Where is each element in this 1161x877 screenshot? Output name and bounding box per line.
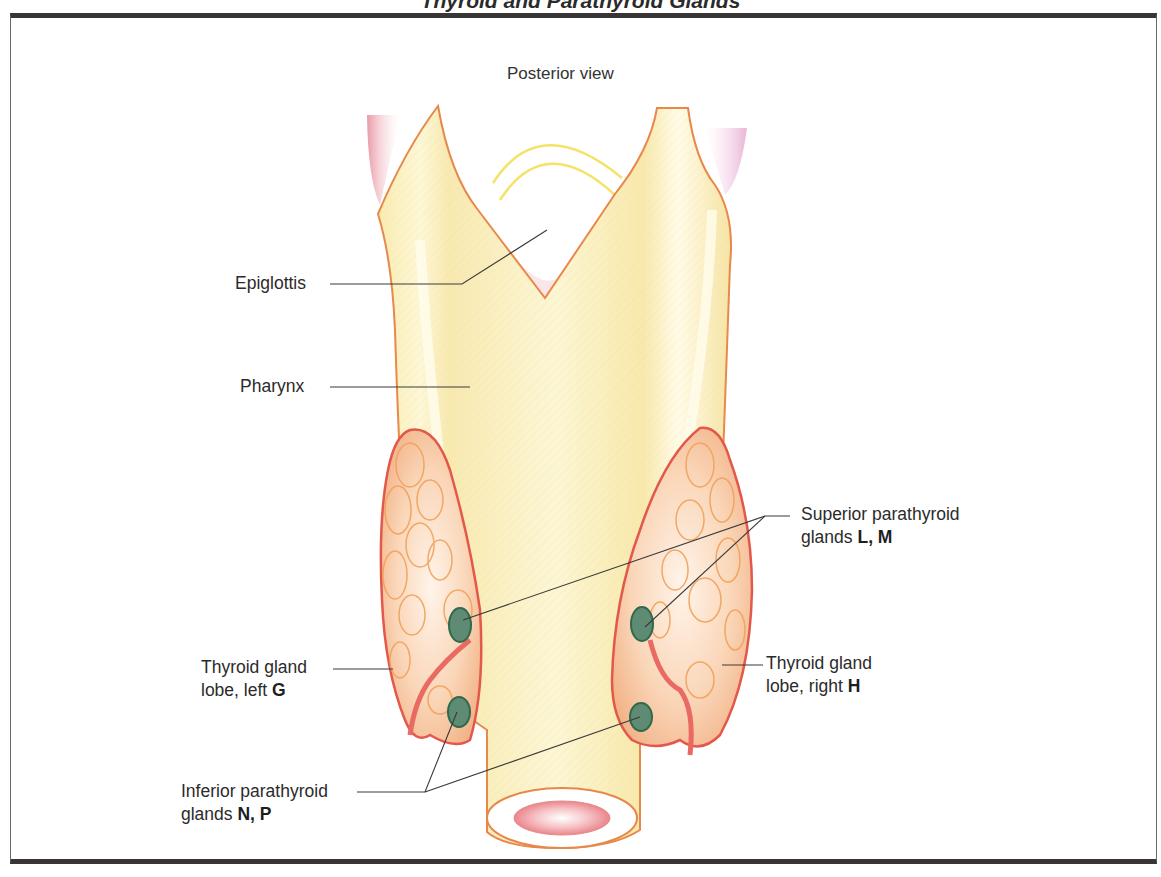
label-inferior-line2: glands [181, 804, 237, 824]
label-superior-parathyroid: Superior parathyroid glands L, M [801, 503, 960, 549]
superior-parathyroid-right [631, 607, 653, 641]
label-superior-line2: glands [801, 527, 857, 547]
label-thyroid-right: Thyroid gland lobe, right H [766, 652, 872, 698]
anatomy-illustration [0, 0, 1161, 877]
label-thyroid-right-letter: H [848, 676, 861, 696]
label-inferior-line1: Inferior parathyroid [181, 780, 328, 803]
label-thyroid-right-line2: lobe, right [766, 676, 848, 696]
label-thyroid-left-letter: G [272, 680, 286, 700]
label-thyroid-left: Thyroid gland lobe, left G [201, 656, 307, 702]
superior-parathyroid-left [449, 608, 471, 642]
inferior-parathyroid-left [448, 697, 470, 727]
label-superior-line1: Superior parathyroid [801, 503, 960, 526]
label-thyroid-right-line1: Thyroid gland [766, 652, 872, 675]
esophagus-opening [487, 788, 637, 848]
label-superior-letters: L, M [857, 527, 892, 547]
label-inferior-parathyroid: Inferior parathyroid glands N, P [181, 780, 328, 826]
label-inferior-letters: N, P [237, 804, 271, 824]
inferior-parathyroid-right [630, 703, 652, 731]
label-thyroid-left-line2: lobe, left [201, 680, 272, 700]
view-label: Posterior view [507, 64, 614, 84]
label-thyroid-left-line1: Thyroid gland [201, 656, 307, 679]
label-epiglottis: Epiglottis [235, 272, 306, 295]
label-pharynx: Pharynx [240, 375, 304, 398]
